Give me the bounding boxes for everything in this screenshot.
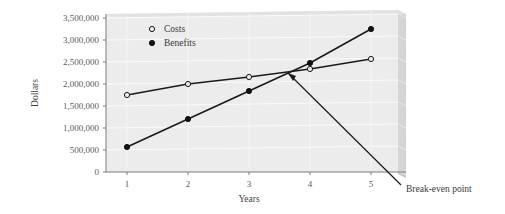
x-axis-tick-labels: 1 2 3 4 5 xyxy=(125,179,374,189)
x-tick-label: 5 xyxy=(369,179,374,189)
y-tick-label: 1,000,000 xyxy=(63,123,100,133)
legend-label-costs: Costs xyxy=(164,24,185,34)
y-axis-tick-labels: 3,500,000 3,000,000 2,500,000 2,000,000 … xyxy=(63,13,100,177)
y-tick-label: 2,000,000 xyxy=(63,79,100,89)
y-tick-label: 3,500,000 xyxy=(63,13,100,23)
x-tick-label: 2 xyxy=(186,179,191,189)
chart-canvas: 3,500,000 3,000,000 2,500,000 2,000,000 … xyxy=(0,0,505,214)
legend-marker-costs xyxy=(149,26,154,31)
x-axis-title: Years xyxy=(238,194,260,204)
y-tick-label: 0 xyxy=(95,167,100,177)
x-tick-label: 3 xyxy=(247,179,252,189)
y-tick-label: 1,500,000 xyxy=(63,101,100,111)
x-tick-label: 1 xyxy=(125,179,130,189)
break-even-chart: 3,500,000 3,000,000 2,500,000 2,000,000 … xyxy=(0,0,505,214)
legend-marker-benefits xyxy=(149,40,154,45)
y-tick-label: 500,000 xyxy=(70,145,100,155)
x-tick-label: 4 xyxy=(308,179,313,189)
legend-label-benefits: Benefits xyxy=(164,38,196,48)
plot-side-panel-3d xyxy=(398,10,406,176)
y-axis-title: Dollars xyxy=(30,79,40,107)
y-tick-label: 2,500,000 xyxy=(63,57,100,67)
break-even-point-label: Break-even point xyxy=(406,184,472,194)
y-tick-label: 3,000,000 xyxy=(63,35,100,45)
